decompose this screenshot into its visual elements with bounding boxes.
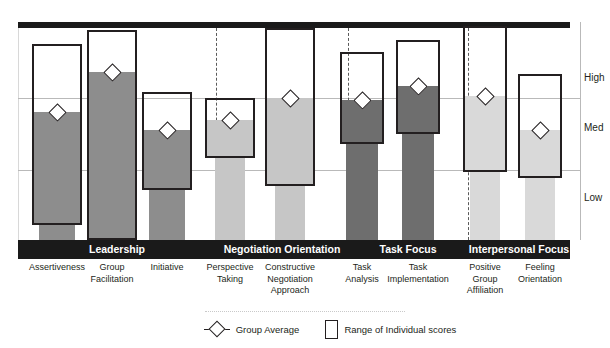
y-tick-label-med: Med [584,122,603,133]
range-box-fill [89,72,135,238]
competency-range-chart: HighMedLow LeadershipNegotiation Orienta… [0,0,610,348]
x-label-line: Constructive [253,262,327,274]
x-category-label-feeling-orientation: FeelingOrientation [503,262,577,285]
legend-label-range: Range of Individual scores [344,324,456,335]
range-box-fill [465,96,505,170]
range-box-icon [325,320,338,339]
x-label-line: Implementation [381,274,455,286]
plot-right-axis-line [580,22,581,240]
legend-label-group-average: Group Average [236,324,300,335]
x-label-line: Affiliation [448,285,522,297]
diamond-marker-icon [204,323,230,336]
x-label-line: Orientation [503,274,577,286]
x-category-label-task-implementation: TaskImplementation [381,262,455,285]
group-label-negotiation-orientation: Negotiation Orientation [216,240,348,259]
x-label-line: Facilitation [75,274,149,286]
plot-left-axis-line [18,22,19,240]
x-label-line: Approach [253,285,327,297]
range-box-fill [267,98,313,184]
y-tick-label-high: High [584,72,605,83]
x-label-line: Negotiation [253,274,327,286]
range-box-fill [34,112,80,223]
group-label-interpersonal-focus: Interpersonal Focus [468,240,570,259]
group-label-leadership: Leadership [18,240,216,259]
x-category-label-constructive-negotiation-approach: ConstructiveNegotiationApproach [253,262,327,297]
x-label-line: Feeling [503,262,577,274]
legend-item-group-average: Group Average [204,323,300,336]
legend-item-range: Range of Individual scores [325,320,456,339]
y-tick-label-low: Low [584,192,602,203]
chart-legend: Group Average Range of Individual scores [180,318,480,340]
range-box [142,92,192,190]
x-label-line: Task [381,262,455,274]
legend-divider [205,311,405,312]
group-label-task-focus: Task Focus [348,240,468,259]
range-box [87,30,137,240]
range-box [32,44,82,225]
